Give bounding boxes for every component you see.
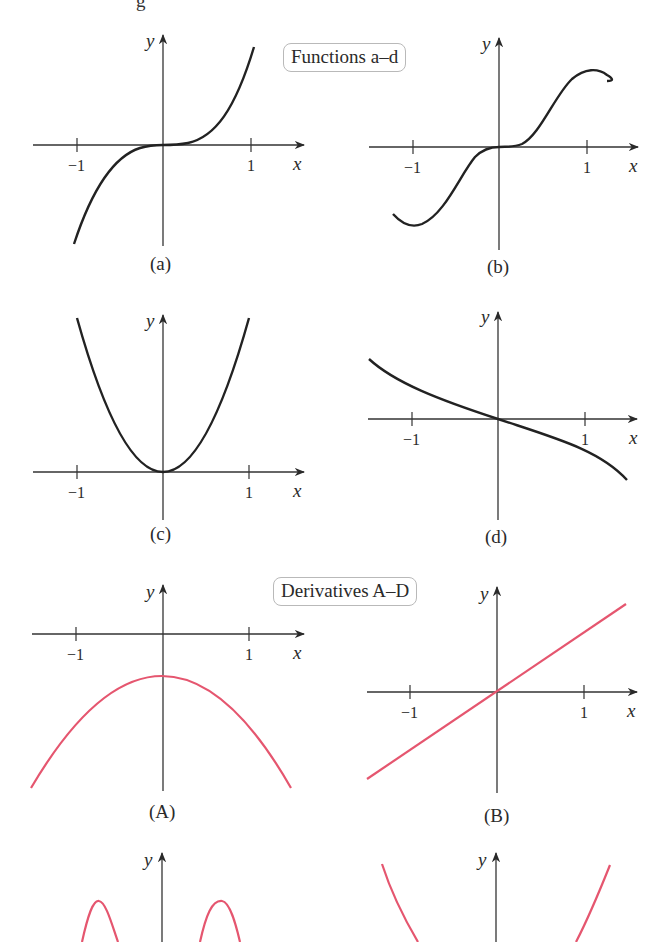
curve-C-right-hump — [200, 901, 240, 942]
x-axis-label: x — [292, 480, 302, 501]
tick-1: 1 — [581, 431, 589, 448]
curve-D-left-arm — [382, 864, 418, 942]
tick-1: 1 — [583, 159, 591, 176]
y-axis-label: y — [144, 30, 155, 51]
tick-neg1: −1 — [401, 704, 418, 721]
curve-C-left-hump — [82, 901, 118, 942]
tick-1: 1 — [245, 484, 253, 501]
caption-A: (A) — [149, 801, 175, 823]
y-axis-label: y — [479, 306, 490, 327]
caption-B: (B) — [484, 805, 509, 827]
plots-svg: −1 1 x y (a) −1 1 x y (b) −1 1 — [0, 0, 668, 942]
x-axis-label: x — [626, 700, 636, 721]
caption-a: (a) — [150, 253, 171, 275]
x-axis-label: x — [628, 155, 638, 176]
x-axis-label: x — [292, 642, 302, 663]
tick-1: 1 — [247, 157, 255, 174]
tick-neg1: −1 — [404, 159, 421, 176]
panel-b: −1 1 x y (b) — [369, 33, 638, 278]
curve-D-right-arm — [576, 865, 610, 942]
y-axis-label: y — [144, 310, 155, 331]
tick-neg1: −1 — [67, 646, 84, 663]
y-axis-label: y — [476, 849, 487, 870]
caption-b: (b) — [487, 256, 509, 278]
curve-A — [31, 676, 291, 788]
caption-d: (d) — [485, 526, 507, 548]
panel-c: −1 1 x y (c) — [33, 310, 304, 545]
y-axis-label: y — [480, 33, 491, 54]
tick-neg1: −1 — [68, 484, 85, 501]
panel-A: −1 1 x y (A) — [31, 581, 304, 823]
tick-1: 1 — [245, 646, 253, 663]
tick-1: 1 — [580, 704, 588, 721]
panel-B: −1 1 x y (B) — [367, 583, 637, 827]
x-axis-label: x — [628, 427, 638, 448]
panel-D: y — [382, 849, 610, 942]
y-axis-label: y — [144, 581, 155, 602]
tick-neg1: −1 — [68, 157, 85, 174]
curve-b — [393, 70, 612, 225]
tick-neg1: −1 — [403, 431, 420, 448]
derivative-matching-figure: g Functions a–d Derivatives A–D −1 1 x y… — [0, 0, 668, 942]
x-axis-label: x — [292, 153, 302, 174]
y-axis-label: y — [478, 583, 489, 604]
y-axis-label: y — [142, 849, 153, 870]
caption-c: (c) — [150, 523, 171, 545]
panel-a: −1 1 x y (a) — [33, 30, 304, 275]
panel-C: y — [82, 849, 240, 942]
panel-d: −1 1 x y (d) — [368, 306, 638, 548]
